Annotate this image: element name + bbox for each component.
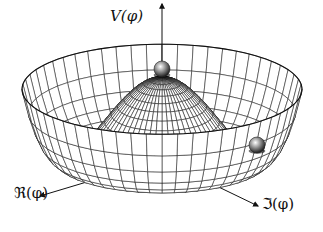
ball-in-trough — [249, 137, 266, 154]
imaginary-axis-label: ℑ(φ) — [262, 197, 294, 212]
ball-at-peak — [154, 61, 171, 78]
potential-axis-label: V(φ) — [110, 9, 143, 24]
real-axis-label: ℜ(φ) — [14, 186, 48, 201]
